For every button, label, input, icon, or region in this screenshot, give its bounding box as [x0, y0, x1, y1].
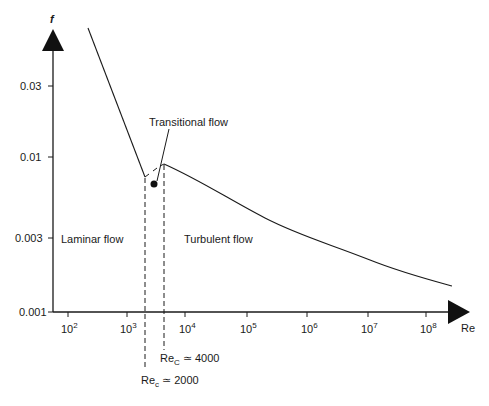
- x-axis-arrow: [448, 300, 470, 324]
- rec-4000-label: ReC ≃ 4000: [160, 353, 219, 367]
- y-axis-arrow: [42, 29, 64, 51]
- transitional-leader: [157, 129, 169, 181]
- x-tick-1e6: 106: [301, 322, 318, 335]
- y-tick-0.001: 0.001: [19, 307, 47, 318]
- x-axis-label: Re: [461, 323, 475, 334]
- x-tick-1e7: 107: [361, 322, 378, 335]
- x-tick-1e2: 102: [61, 322, 78, 335]
- transition-dashed: [153, 164, 164, 171]
- chart-canvas: [0, 0, 489, 406]
- laminar-label: Laminar flow: [61, 234, 123, 245]
- x-ticks: [68, 312, 426, 317]
- laminar-curve: [88, 28, 145, 177]
- y-ticks: [48, 86, 53, 312]
- rec-2000-label: Rec ≃ 2000: [141, 375, 199, 389]
- y-tick-0.003: 0.003: [15, 233, 43, 244]
- x-tick-1e8: 108: [420, 322, 437, 335]
- y-tick-0.03: 0.03: [20, 81, 41, 92]
- y-axis-label: f: [50, 14, 54, 25]
- x-tick-1e3: 103: [120, 322, 137, 335]
- transitional-label: Transitional flow: [149, 117, 228, 128]
- turbulent-label: Turbulent flow: [184, 234, 253, 245]
- transitional-dot: [151, 181, 158, 188]
- turbulent-curve: [164, 164, 452, 286]
- x-tick-1e4: 104: [179, 322, 196, 335]
- y-tick-0.01: 0.01: [20, 152, 41, 163]
- x-tick-1e5: 105: [240, 322, 257, 335]
